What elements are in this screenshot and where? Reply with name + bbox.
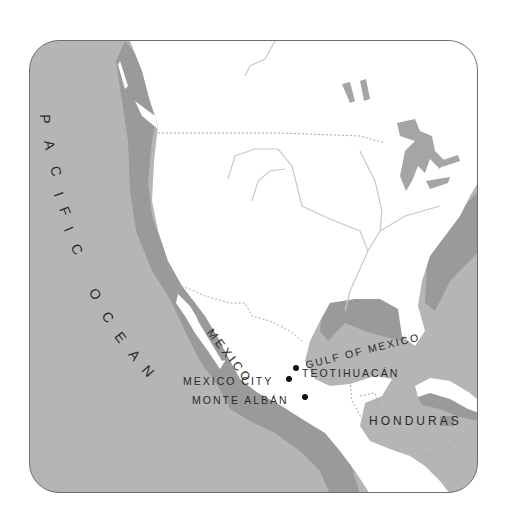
- site-dot-teotihuacan: [293, 365, 299, 371]
- site-dot-mexico-city: [286, 376, 292, 382]
- site-label-mexico-city: MEXICO CITY: [183, 375, 273, 387]
- map-frame: P A C I F I C O C E A N MEXICO GULF OF M…: [29, 40, 478, 493]
- honduras-label: HONDURAS: [369, 414, 462, 428]
- site-label-teotihuacan: TEOTIHUACÁN: [302, 367, 399, 379]
- site-dot-monte-alban: [302, 394, 308, 400]
- pacific-ocean-letter: P: [37, 114, 53, 123]
- site-label-monte-alban: MONTE ALBÁN: [192, 394, 289, 406]
